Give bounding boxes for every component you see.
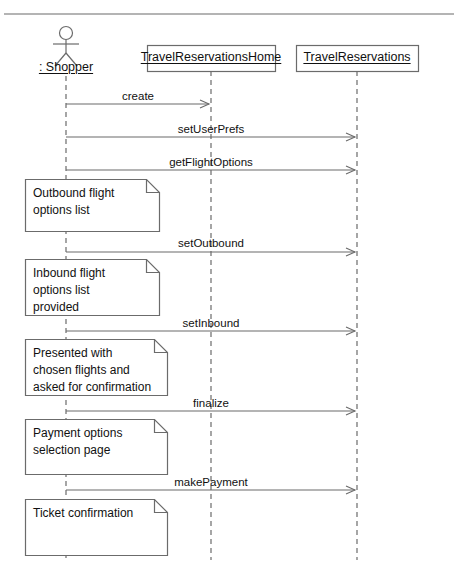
actor-label-shopper: : Shopper: [39, 60, 93, 75]
note-line: Outbound flight: [33, 185, 153, 202]
note-line: asked for confirmation: [33, 379, 161, 396]
note-line: Presented with: [33, 345, 161, 362]
note-payment-options-text: Payment optionsselection page: [33, 425, 161, 459]
note-line: options list: [33, 202, 153, 219]
sequence-diagram-canvas: : ShopperTravelReservationsHomeTravelRes…: [0, 0, 454, 572]
note-inbound-flight-options-text: Inbound flightoptions listprovided: [33, 265, 153, 316]
message-label-4: setInbound: [183, 316, 240, 331]
message-label-3: setOutbound: [178, 236, 244, 251]
note-line: Payment options: [33, 425, 161, 442]
actor-head-icon: [60, 27, 73, 40]
message-label-6: makePayment: [174, 475, 248, 490]
message-label-5: finalize: [193, 396, 229, 411]
note-line: Ticket confirmation: [33, 505, 161, 522]
message-label-0: create: [122, 89, 154, 104]
note-line: options list: [33, 282, 153, 299]
note-line: Inbound flight: [33, 265, 153, 282]
message-label-1: setUserPrefs: [178, 122, 244, 137]
lifeline-label-travel-reservations: TravelReservations: [303, 50, 410, 65]
note-presented-chosen-flights-text: Presented withchosen flights andasked fo…: [33, 345, 161, 396]
note-outbound-flight-options-text: Outbound flightoptions list: [33, 185, 153, 219]
note-line: provided: [33, 299, 153, 316]
note-line: selection page: [33, 442, 161, 459]
message-label-2: getFlightOptions: [169, 155, 253, 170]
note-line: chosen flights and: [33, 362, 161, 379]
lifeline-label-travel-reservations-home: TravelReservationsHome: [141, 50, 282, 65]
note-ticket-confirmation-text: Ticket confirmation: [33, 505, 161, 522]
